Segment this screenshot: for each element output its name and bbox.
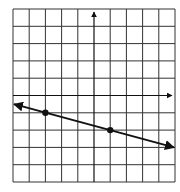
data-point bbox=[42, 110, 48, 116]
coordinate-plane-chart bbox=[0, 0, 180, 192]
data-point bbox=[107, 127, 113, 133]
